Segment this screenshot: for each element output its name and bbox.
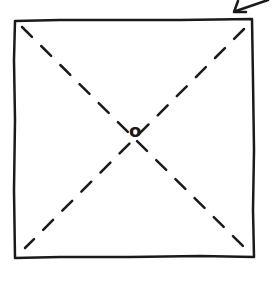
arrow-icon (234, 0, 268, 12)
sketch-canvas (0, 0, 273, 282)
center-circle-label: o (129, 121, 141, 141)
